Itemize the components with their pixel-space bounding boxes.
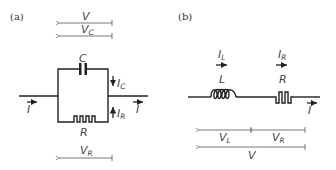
current-il-arrow: IL [216, 48, 227, 65]
right-branch-wire [86, 69, 108, 122]
panel-a-label: (a) [10, 11, 24, 22]
svg-text:VR: VR [272, 131, 285, 145]
voltage-vr-label: VR [80, 144, 93, 158]
svg-text:IR: IR [278, 48, 286, 62]
voltage-vc-label: VC [81, 23, 95, 37]
panel-a: (a) V VC C R I [10, 10, 148, 161]
svg-text:I: I [27, 103, 30, 116]
voltage-vr-arrow-b: VR [253, 127, 305, 145]
svg-text:IL: IL [218, 48, 225, 62]
svg-text:VL: VL [219, 131, 231, 145]
voltage-vl-arrow: VL [199, 127, 251, 145]
panel-b: (b) IL IR L R I VL [178, 11, 320, 162]
current-i-in-arrow: I [27, 102, 37, 116]
svg-text:IC: IC [117, 77, 126, 91]
inductor-l-label: L [219, 73, 225, 86]
svg-text:I: I [308, 104, 311, 117]
current-ic-arrow: IC [113, 76, 126, 91]
resistor-r-label-b: R [279, 73, 287, 86]
resistor-icon [72, 116, 96, 122]
resistor-icon-b [274, 92, 294, 103]
voltage-v-label: V [82, 10, 91, 23]
current-ir-arrow: IR [113, 107, 125, 121]
svg-text:V: V [248, 149, 257, 162]
resistor-r-label: R [80, 126, 88, 139]
voltage-v-arrow-b: V [199, 144, 305, 162]
current-i-out-arrow-b: I [307, 103, 317, 117]
voltage-vr-arrow: VR [59, 144, 112, 161]
left-branch-wire [58, 69, 80, 122]
circuit-diagrams: (a) V VC C R I [0, 0, 336, 170]
svg-text:I: I [136, 103, 139, 116]
svg-text:IR: IR [117, 107, 125, 121]
voltage-vc-arrow: VC [59, 23, 112, 39]
inductor-icon [211, 90, 236, 99]
current-ir-arrow-b: IR [276, 48, 287, 65]
current-i-out-arrow: I [133, 102, 143, 116]
panel-b-label: (b) [178, 11, 192, 22]
